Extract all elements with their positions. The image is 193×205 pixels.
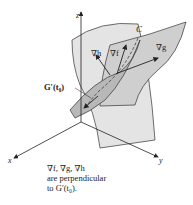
caption-line-2: are perpendicular bbox=[47, 173, 106, 183]
caption: ∇f, ∇g, ∇h are perpendicular to G′(t₀). bbox=[47, 163, 106, 193]
z-axis-label: z bbox=[75, 11, 80, 20]
caption-line-1: ∇f, ∇g, ∇h bbox=[47, 163, 106, 173]
caption-line-3: to G′(t₀). bbox=[47, 183, 106, 193]
tangent-label: G′(t₀) bbox=[44, 82, 64, 92]
grad-f-label: ∇f bbox=[110, 48, 119, 58]
grad-g-label: ∇g bbox=[156, 42, 167, 52]
grad-h-label: ∇h bbox=[91, 48, 102, 58]
x-axis-label: x bbox=[7, 156, 12, 165]
x-axis bbox=[14, 122, 81, 158]
y-axis-label: y bbox=[158, 156, 163, 165]
curve-c-label: C bbox=[136, 24, 143, 34]
